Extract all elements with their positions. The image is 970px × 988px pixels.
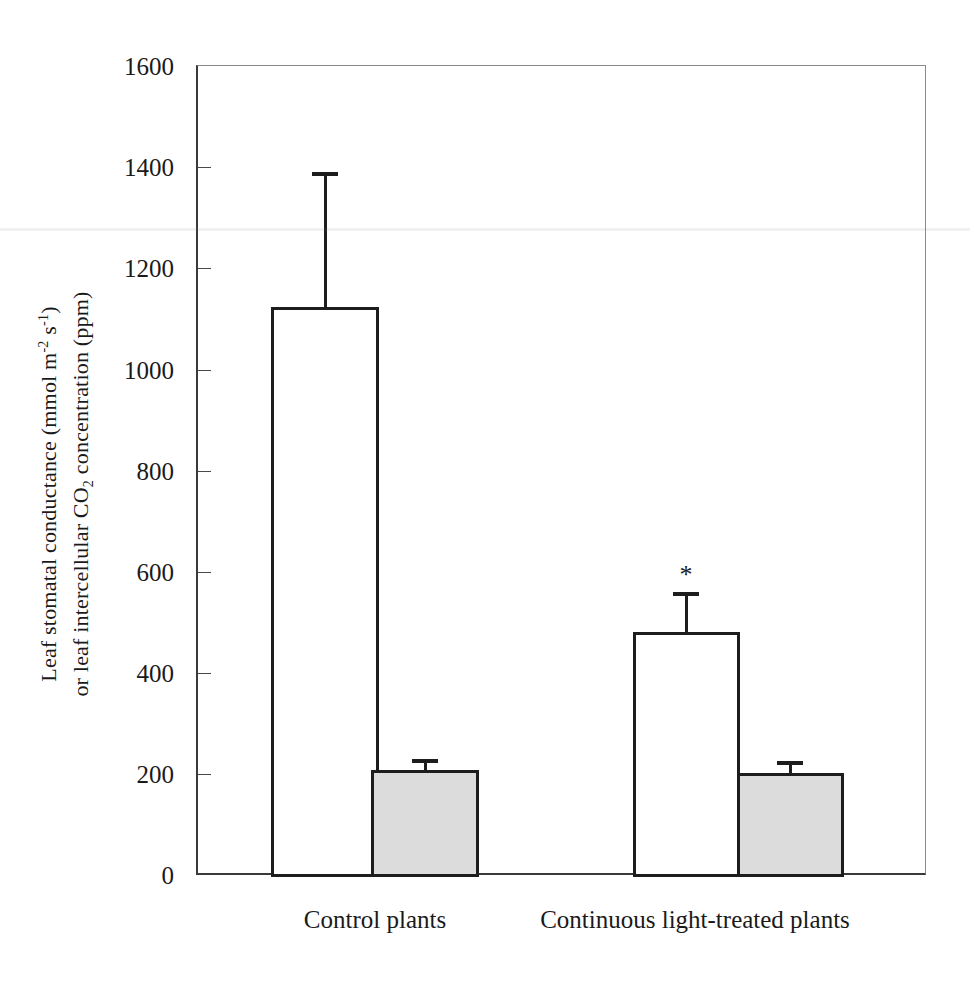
y-tick-label-1600: 1600 <box>60 54 196 79</box>
figure-bar-chart: Leaf stomatal conductance (mmol m-2 s-1)… <box>0 0 970 988</box>
plot-area-frame <box>196 65 926 875</box>
y-tick-label-800: 800 <box>60 459 196 484</box>
y-tick-mark-800 <box>198 471 211 472</box>
y-tick-label-1400: 1400 <box>60 155 196 180</box>
x-axis-category-label-continuous-light: Continuous light-treated plants <box>540 905 850 935</box>
y-tick-label-400: 400 <box>60 661 196 686</box>
y-axis-title-exponent-m: -2 <box>35 340 51 352</box>
y-tick-label-1000: 1000 <box>60 358 196 383</box>
y-axis-title-line-1-pre: Leaf stomatal conductance (mmol m <box>36 353 61 682</box>
y-tick-label-200: 200 <box>60 762 196 787</box>
y-tick-mark-1400 <box>198 167 211 168</box>
y-axis-title-line-1-mid: s <box>36 326 61 340</box>
y-axis-title-exponent-s: -1 <box>35 314 51 326</box>
y-tick-label-1200: 1200 <box>60 256 196 281</box>
y-tick-mark-600 <box>198 572 211 573</box>
y-axis-title-line-1-post: ) <box>36 306 61 314</box>
y-tick-mark-1200 <box>198 268 211 269</box>
y-axis-tick-labels: 1600 1400 1200 1000 800 600 400 200 0 <box>60 0 196 988</box>
y-tick-mark-1000 <box>198 370 211 371</box>
y-tick-label-600: 600 <box>60 560 196 585</box>
y-tick-mark-200 <box>198 774 211 775</box>
y-tick-label-0: 0 <box>60 863 196 888</box>
y-tick-mark-400 <box>198 673 211 674</box>
x-axis-category-label-control: Control plants <box>304 905 446 935</box>
